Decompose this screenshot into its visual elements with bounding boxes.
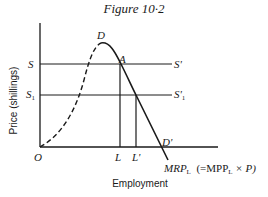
label-origin: O: [34, 152, 42, 163]
label-d-prime: D': [162, 137, 172, 148]
mrp-solid-curve: [101, 43, 168, 160]
x-axis-label: Employment: [60, 178, 220, 189]
y-axis-label: Price (shillings): [8, 66, 19, 136]
label-mrp-curve: MRPL (=MPPL × P): [164, 163, 256, 178]
label-s-prime: S': [174, 59, 182, 70]
label-l-prime: L': [132, 152, 140, 163]
label-s: S: [28, 59, 34, 70]
label-d: D: [97, 30, 105, 41]
label-s1: S1: [26, 89, 35, 104]
label-a: A: [119, 54, 126, 65]
label-s1-prime: S'1: [174, 89, 185, 104]
label-l: L: [115, 152, 121, 163]
